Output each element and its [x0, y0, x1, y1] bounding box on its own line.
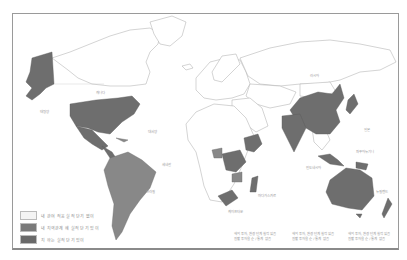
label-png: 파푸아뉴기니	[356, 150, 374, 154]
legend-item: 내 관여 적응 실적 단기 없이	[20, 210, 99, 221]
madagascar	[250, 176, 258, 192]
zambia	[232, 172, 242, 182]
indonesia	[318, 154, 344, 166]
label-indonesia: 인도네시아	[306, 166, 321, 170]
nz	[382, 198, 392, 218]
label-canada: 캐나다	[96, 91, 105, 95]
canada-region	[52, 28, 160, 86]
note-3-line1: 해외 투자, 환경 단계 실적 있음	[348, 232, 390, 236]
label-south-africa: 케이프타운	[228, 210, 243, 214]
central-america	[102, 146, 116, 158]
label-brazil: 브라질	[146, 190, 155, 194]
tasmania	[356, 214, 362, 218]
japan	[346, 94, 358, 114]
nigeria	[212, 148, 222, 158]
label-russia: 러시아	[310, 74, 319, 78]
south-america	[104, 152, 156, 240]
legend-item: 내 지역관계 혜 실적 단기 있이	[20, 222, 99, 233]
label-nz: 뉴질랜드	[376, 190, 388, 194]
note-2-line2: 원활 투자율 순 / 통계 없음	[292, 237, 329, 241]
png	[356, 162, 368, 170]
note-1-line2: 원활 투자율 순 / 통계 없음	[234, 237, 271, 241]
legend-label: 지 하는 실적 단기 있이	[41, 237, 85, 243]
label-atlantic: 대서양	[148, 130, 157, 134]
legend-swatch-none	[20, 211, 37, 220]
legend-swatch-medium	[20, 223, 37, 232]
map-legend: 내 관여 적응 실적 단기 없이 내 지역관계 혜 실적 단기 있이 지 하는 …	[20, 210, 99, 246]
iceland	[182, 64, 193, 70]
label-madagascar: 마다가스카르	[258, 194, 276, 198]
note-2-line1: 해외 투자, 환경 단계 실적 있음	[292, 232, 334, 236]
legend-label: 내 지역관계 혜 실적 단기 있이	[41, 225, 99, 231]
note-1-line1: 해외 투자, 환경 단계 실적 있음	[234, 232, 276, 236]
australia	[326, 168, 374, 210]
note-3-line2: 원활 투자율 순 / 통계 없음	[348, 237, 385, 241]
legend-label: 내 관여 적응 실적 단기 없이	[41, 213, 95, 219]
legend-item: 지 하는 실적 단기 있이	[20, 234, 99, 245]
alaska	[26, 52, 54, 100]
cuba	[116, 138, 128, 142]
india	[282, 114, 306, 152]
russia	[240, 40, 396, 86]
label-japan: 일본	[364, 128, 370, 132]
legend-swatch-dark	[20, 235, 37, 244]
label-africa-west: 세네갈	[162, 163, 171, 167]
label-pacific: 태평양	[40, 110, 49, 114]
